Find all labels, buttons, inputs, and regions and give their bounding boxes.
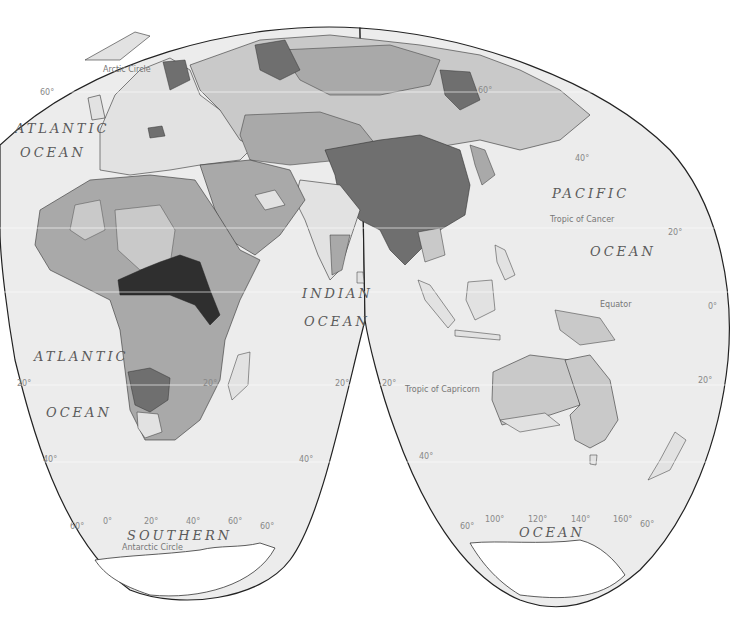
tasmania <box>590 455 597 465</box>
world-map <box>0 0 741 629</box>
lat-label: 0° <box>708 302 717 311</box>
lat-label: 40° <box>419 452 433 461</box>
sri-lanka <box>357 272 364 283</box>
ocean-label-atlantic-south-ocean: OCEAN <box>46 405 112 420</box>
lat-label: 40° <box>575 154 589 163</box>
ocean-label-southern-ocean: OCEAN <box>519 525 585 540</box>
lon-label: 0° <box>103 517 112 526</box>
ocean-label-southern: SOUTHERN <box>127 528 232 543</box>
ocean-label-atlantic-north: ATLANTIC <box>15 121 110 136</box>
equator-label: Equator <box>600 300 631 309</box>
lon-label: 20° <box>144 517 158 526</box>
lat-label: 60° <box>478 86 492 95</box>
lat-label: 20° <box>668 228 682 237</box>
lat-label: 60° <box>640 520 654 529</box>
lat-label: 20° <box>698 376 712 385</box>
lat-label: 40° <box>299 455 313 464</box>
lat-label: 20° <box>203 379 217 388</box>
tropic-of-capricorn-label: Tropic of Capricorn <box>405 385 480 394</box>
lon-label: 100° <box>485 515 504 524</box>
ocean-label-pacific-ocean: OCEAN <box>590 244 656 259</box>
lat-label: 20° <box>382 379 396 388</box>
arctic-circle-label: Arctic Circle <box>103 65 151 74</box>
lon-label: 160° <box>613 515 632 524</box>
lon-label: 40° <box>186 517 200 526</box>
tropic-of-cancer-label: Tropic of Cancer <box>550 215 614 224</box>
arctic-islands <box>85 32 150 60</box>
lat-label: 20° <box>17 379 31 388</box>
lat-label: 60° <box>70 522 84 531</box>
lat-label: 20° <box>335 379 349 388</box>
hungary-dark <box>148 126 165 138</box>
lat-label: 60° <box>40 88 54 97</box>
lon-label: 60° <box>228 517 242 526</box>
lat-label: 40° <box>43 455 57 464</box>
lat-label: 60° <box>460 522 474 531</box>
ocean-label-indian: INDIAN <box>302 286 373 301</box>
ocean-label-atlantic-south: ATLANTIC <box>34 349 129 364</box>
ocean-label-pacific: PACIFIC <box>552 186 629 201</box>
lon-label: 140° <box>571 515 590 524</box>
lat-label: 60° <box>260 522 274 531</box>
antarctic-circle-label: Antarctic Circle <box>122 543 183 552</box>
ocean-label-atlantic-north-ocean: OCEAN <box>20 145 86 160</box>
lon-label: 120° <box>528 515 547 524</box>
ocean-label-indian-ocean: OCEAN <box>304 314 370 329</box>
